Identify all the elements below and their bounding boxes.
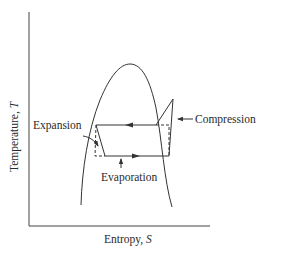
- evaporation-arrow-icon: [132, 154, 140, 159]
- compression-label: Compression: [195, 113, 256, 126]
- evaporation-label: Evaporation: [101, 171, 157, 184]
- saturation-dome: [81, 64, 172, 207]
- expansion-line: [96, 125, 105, 156]
- y-axis-label: Temperature, T: [8, 100, 21, 172]
- ts-diagram: Expansion Compression Evaporation Entrop…: [0, 0, 284, 254]
- expansion-label: Expansion: [33, 119, 82, 132]
- x-axis-label: Entropy, S: [104, 233, 152, 246]
- condensation-arrow-icon: [125, 123, 133, 128]
- compression-line: [156, 99, 173, 156]
